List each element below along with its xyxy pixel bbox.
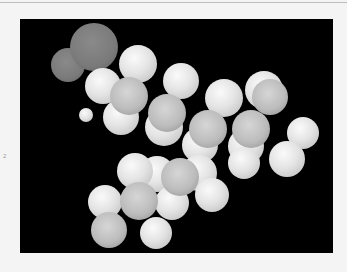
carbon-atom [189,110,227,148]
hydrogen-atom [228,147,260,179]
carbon-atom [110,77,148,115]
hydrogen-atom [269,141,305,177]
carbon-atom [252,79,288,115]
side-mark: 2 [3,153,6,159]
hydrogen-atom [79,108,93,122]
hydrogen-atom [195,178,229,212]
carbon-atom [161,158,199,196]
carbon-atom [120,182,158,220]
oxygen-atom [70,23,118,71]
carbon-atom [148,94,186,132]
top-divider [0,2,347,3]
carbon-atom [91,212,127,248]
carbon-atom [232,110,270,148]
hydrogen-atom [140,217,172,249]
molecule-viewer[interactable] [20,19,333,253]
